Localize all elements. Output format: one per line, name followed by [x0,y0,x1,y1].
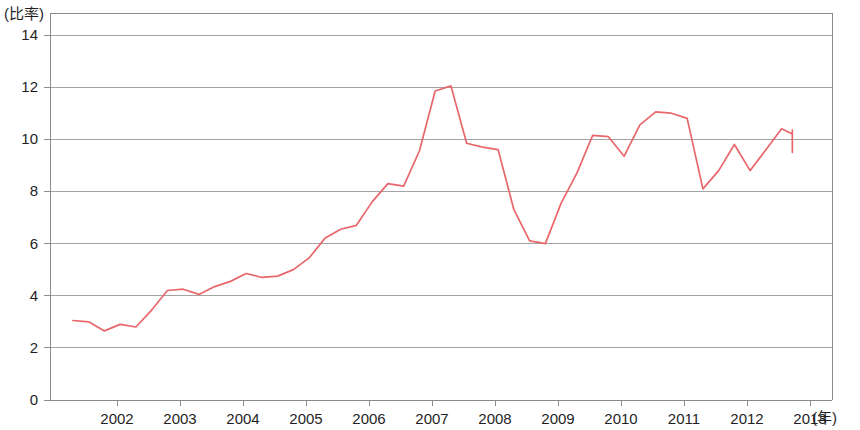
x-axis-ticks: 2002200320042005200620072008200920102011… [100,400,826,427]
svg-text:2007: 2007 [415,410,448,427]
svg-text:14: 14 [21,26,38,43]
svg-text:12: 12 [21,78,38,95]
svg-text:0: 0 [30,391,38,408]
svg-text:2011: 2011 [668,410,700,427]
y-axis-ticks: 02468101214 [21,26,50,408]
svg-text:2: 2 [30,339,38,356]
svg-text:2013: 2013 [793,410,826,427]
svg-text:2010: 2010 [604,410,637,427]
svg-text:6: 6 [30,235,38,252]
plot-frame [50,13,832,400]
svg-text:2003: 2003 [163,410,196,427]
svg-text:2004: 2004 [226,410,259,427]
svg-text:2006: 2006 [352,410,385,427]
svg-text:4: 4 [30,287,38,304]
svg-text:8: 8 [30,182,38,199]
svg-text:10: 10 [21,130,38,147]
svg-text:2012: 2012 [730,410,763,427]
chart-container: (比率) (年) 02468101214 2002200320042005200… [0,0,860,430]
line-chart-plot: 02468101214 2002200320042005200620072008… [0,0,860,430]
data-series [73,86,792,331]
svg-text:2009: 2009 [541,410,574,427]
svg-text:2002: 2002 [100,410,133,427]
svg-text:2008: 2008 [478,410,511,427]
gridlines [50,35,832,348]
svg-text:2005: 2005 [289,410,322,427]
